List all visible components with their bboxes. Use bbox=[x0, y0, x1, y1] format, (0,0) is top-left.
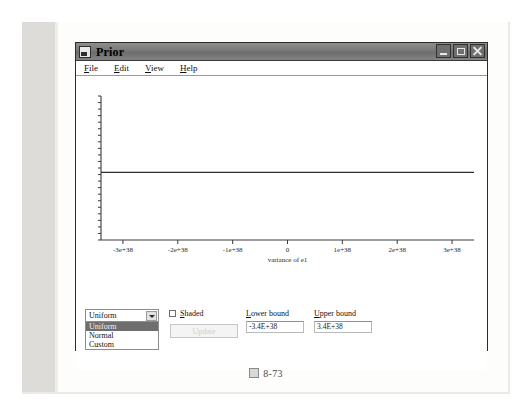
window-app-icon bbox=[79, 46, 91, 58]
plot-canvas bbox=[76, 76, 487, 298]
x-tick-label: 1e+38 bbox=[334, 246, 352, 254]
menu-rest-file: ile bbox=[89, 63, 98, 73]
lower-bound-group: Lower bound -3.4E+38 bbox=[246, 309, 304, 333]
shaded-rest: haded bbox=[184, 309, 203, 318]
lower-bound-label: Lower bound bbox=[246, 309, 304, 318]
figure-number: 8-73 bbox=[263, 368, 283, 379]
x-tick-label: -1e+38 bbox=[223, 246, 243, 254]
upper-bound-rest: pper bound bbox=[320, 309, 356, 318]
window-controls bbox=[436, 44, 485, 58]
upper-bound-group: Upper bound 3.4E+38 bbox=[314, 309, 372, 333]
prior-window: Prior File Edit View Help -3e+38-2e+38-1… bbox=[75, 42, 488, 351]
menu-rest-help: elp bbox=[187, 63, 198, 73]
x-tick-label: 3e+38 bbox=[443, 246, 461, 254]
window-titlebar[interactable]: Prior bbox=[76, 43, 487, 61]
lower-bound-rest: ower bound bbox=[251, 309, 289, 318]
shaded-checkbox[interactable]: Shaded bbox=[169, 309, 204, 318]
upper-bound-input[interactable]: 3.4E+38 bbox=[314, 321, 372, 333]
shaded-checkbox-label: Shaded bbox=[180, 309, 204, 318]
menu-item-view[interactable]: View bbox=[145, 63, 164, 73]
scan-gutter-edge bbox=[55, 22, 58, 394]
x-tick-label: -2e+38 bbox=[168, 246, 188, 254]
scan-gutter-shadow bbox=[22, 22, 56, 394]
controls-panel: Uniform Uniform Normal Custom Shaded Upd… bbox=[76, 298, 487, 370]
close-button[interactable] bbox=[470, 44, 485, 58]
x-tick-label: -3e+38 bbox=[113, 246, 133, 254]
chevron-down-icon[interactable] bbox=[146, 311, 157, 321]
minimize-button[interactable] bbox=[436, 44, 451, 58]
figure-marker-icon bbox=[249, 368, 259, 378]
distribution-select[interactable]: Uniform bbox=[85, 309, 159, 322]
distribution-select-value: Uniform bbox=[86, 311, 117, 320]
update-button: Update bbox=[170, 324, 238, 338]
x-tick-label: 2e+38 bbox=[388, 246, 406, 254]
menu-item-edit[interactable]: Edit bbox=[114, 63, 129, 73]
menubar: File Edit View Help bbox=[76, 61, 487, 76]
distribution-option-uniform[interactable]: Uniform bbox=[86, 322, 158, 331]
lower-bound-input[interactable]: -3.4E+38 bbox=[246, 321, 304, 333]
menu-item-help[interactable]: Help bbox=[180, 63, 198, 73]
distribution-select-list[interactable]: Uniform Normal Custom bbox=[85, 322, 159, 350]
scanned-page: Prior File Edit View Help -3e+38-2e+38-1… bbox=[0, 0, 532, 416]
menu-rest-edit: dit bbox=[120, 63, 130, 73]
figure-caption: 8-73 bbox=[0, 368, 532, 379]
window-title: Prior bbox=[96, 46, 124, 58]
distribution-option-custom[interactable]: Custom bbox=[86, 340, 158, 349]
page-edge-bottom bbox=[22, 392, 510, 394]
x-tick-label: 0 bbox=[286, 246, 290, 254]
page-edge-right bbox=[508, 22, 510, 394]
menu-item-file[interactable]: File bbox=[84, 63, 98, 73]
maximize-button[interactable] bbox=[453, 44, 468, 58]
prior-plot: -3e+38-2e+38-1e+3801e+382e+383e+38 varia… bbox=[76, 76, 487, 298]
x-axis-title: variance of e1 bbox=[268, 256, 308, 264]
upper-bound-label: Upper bound bbox=[314, 309, 372, 318]
menu-rest-view: iew bbox=[151, 63, 164, 73]
distribution-option-normal[interactable]: Normal bbox=[86, 331, 158, 340]
checkbox-box-icon[interactable] bbox=[169, 310, 176, 317]
